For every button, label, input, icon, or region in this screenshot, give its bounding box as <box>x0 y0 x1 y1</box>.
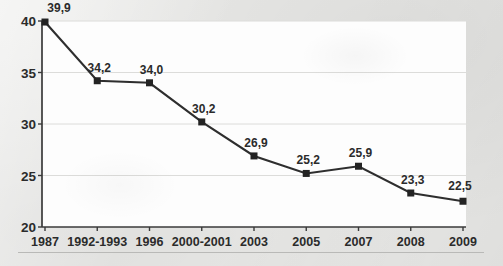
data-point-marker-2000-2001 <box>198 118 205 125</box>
data-point-marker-1996 <box>146 79 153 86</box>
y-axis-tick-label-group: 2025303540 <box>21 14 37 235</box>
data-point-label-2009: 22,5 <box>448 179 472 193</box>
data-point-label-1996: 34,0 <box>140 63 164 77</box>
chart-svg: 2025303540 39,934,234,030,226,925,225,92… <box>0 0 503 266</box>
y-axis-label-20: 20 <box>21 220 36 235</box>
data-point-label-group: 39,934,234,030,226,925,225,923,322,5 <box>47 1 472 193</box>
x-axis-label-1996: 1996 <box>136 235 164 249</box>
data-point-label-2005: 25,2 <box>297 153 321 167</box>
data-point-label-1987: 39,9 <box>47 1 71 15</box>
data-point-marker-2007 <box>355 163 362 170</box>
x-axis-label-2003: 2003 <box>240 235 268 249</box>
data-point-label-1992-1993: 34,2 <box>88 61 112 75</box>
data-point-marker-1987 <box>42 19 49 26</box>
data-point-label-2007: 25,9 <box>349 146 373 160</box>
x-axis-tick-label-group: 19871992-199319962000-200120032005200720… <box>31 235 477 249</box>
data-point-marker-2009 <box>460 198 467 205</box>
x-axis-label-2007: 2007 <box>345 235 373 249</box>
x-axis-label-2009: 2009 <box>449 235 477 249</box>
y-axis-label-35: 35 <box>21 66 37 81</box>
line-chart-figure: 2025303540 39,934,234,030,226,925,225,92… <box>0 0 503 266</box>
data-point-marker-2008 <box>407 190 414 197</box>
x-axis-label-1992-1993: 1992-1993 <box>67 235 127 249</box>
data-point-marker-2005 <box>303 170 310 177</box>
x-axis-label-2005: 2005 <box>292 235 320 249</box>
y-axis-label-40: 40 <box>21 14 36 29</box>
gridline-group <box>42 21 466 176</box>
data-point-label-2008: 23,3 <box>401 173 425 187</box>
x-axis-label-2000-2001: 2000-2001 <box>172 235 232 249</box>
y-axis-label-30: 30 <box>21 117 36 132</box>
x-axis-label-2008: 2008 <box>397 235 425 249</box>
data-point-label-2000-2001: 30,2 <box>192 102 216 116</box>
data-point-marker-2003 <box>251 152 258 159</box>
x-axis-label-1987: 1987 <box>31 235 59 249</box>
page-footer-rule <box>18 252 484 253</box>
data-point-marker-1992-1993 <box>94 77 101 84</box>
data-point-label-2003: 26,9 <box>244 136 268 150</box>
y-axis-label-25: 25 <box>21 169 37 184</box>
